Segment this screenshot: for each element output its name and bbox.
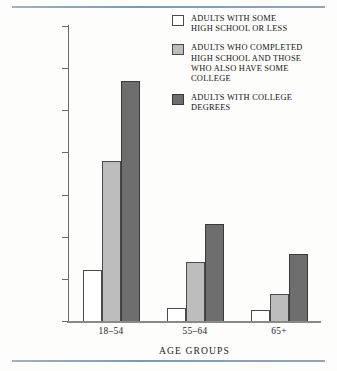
bar (167, 308, 186, 321)
x-axis-tick-label: 18–54 (99, 326, 124, 336)
legend-item: ADULTS WITH COLLEGE DEGREES (172, 93, 332, 113)
legend-item: ADULTS WITH SOME HIGH SCHOOL OR LESS (172, 14, 332, 34)
y-axis-tick (62, 68, 68, 69)
bar (270, 294, 289, 321)
legend-label: ADULTS WITH SOME HIGH SCHOOL OR LESS (191, 14, 287, 34)
y-axis-tick (62, 152, 68, 153)
chart-figure: PERCENT OF ADULTS ENROLLED IN AT LEAST O… (0, 0, 337, 371)
x-axis-line (67, 321, 321, 323)
y-axis-tick (62, 279, 68, 280)
bar (121, 81, 140, 321)
legend-label: ADULTS WITH COLLEGE DEGREES (191, 93, 292, 113)
legend-swatch-icon (172, 15, 184, 26)
y-axis-tick (62, 195, 68, 196)
legend-swatch-icon (172, 44, 184, 55)
top-divider-rule (12, 6, 325, 8)
legend-swatch-icon (172, 94, 184, 105)
bar (205, 224, 224, 321)
bar (251, 310, 270, 321)
y-axis-tick (62, 26, 68, 27)
x-axis-tick-label: 65+ (271, 326, 287, 336)
bottom-divider-rule (12, 360, 325, 362)
bar (289, 254, 308, 321)
x-axis-title: AGE GROUPS (68, 345, 321, 356)
legend: ADULTS WITH SOME HIGH SCHOOL OR LESSADUL… (172, 14, 332, 123)
x-axis-tick-label: 55–64 (183, 326, 208, 336)
legend-label: ADULTS WHO COMPLETED HIGH SCHOOL AND THO… (191, 43, 303, 84)
y-axis-tick (62, 237, 68, 238)
y-axis-tick (62, 321, 68, 322)
bar (102, 161, 121, 321)
bar (83, 270, 102, 321)
bar-group: 18–54 (69, 25, 153, 321)
bar (186, 262, 205, 321)
legend-item: ADULTS WHO COMPLETED HIGH SCHOOL AND THO… (172, 43, 332, 84)
y-axis-tick (62, 110, 68, 111)
